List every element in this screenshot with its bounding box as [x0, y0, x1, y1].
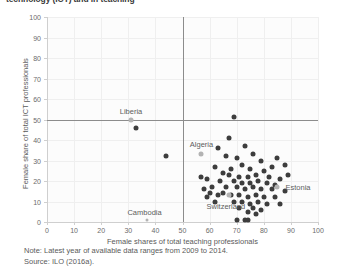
data-point [283, 162, 288, 167]
x-tick-label: 90 [287, 227, 295, 234]
point-label: Cambodia [127, 207, 161, 216]
data-point [204, 176, 209, 181]
data-point [237, 174, 242, 179]
point-label: Liberia [120, 107, 143, 116]
y-tick [44, 38, 47, 39]
y-tick-label: 20 [33, 178, 41, 185]
data-point [231, 115, 236, 120]
data-point [278, 176, 283, 181]
x-tick [101, 222, 102, 225]
data-point [240, 181, 245, 186]
data-point [245, 174, 250, 179]
y-tick-label: 100 [29, 14, 41, 21]
footnote: Note: Latest year of available data rang… [24, 246, 228, 267]
data-point [259, 187, 264, 192]
data-point [204, 195, 209, 200]
data-point-highlighted [226, 193, 231, 198]
x-tick [237, 222, 238, 225]
x-tick-label: 30 [124, 227, 132, 234]
data-point [226, 172, 231, 177]
data-point-highlighted [129, 117, 134, 122]
data-point [250, 152, 255, 157]
y-tick-label: 70 [33, 75, 41, 82]
y-tick-label: 30 [33, 157, 41, 164]
data-point [275, 156, 280, 161]
data-point [234, 185, 239, 190]
y-tick [44, 161, 47, 162]
footnote-note: Note: Latest year of available data rang… [24, 246, 228, 257]
y-tick [44, 99, 47, 100]
data-point [267, 174, 272, 179]
x-tick [264, 222, 265, 225]
x-tick-label: 20 [97, 227, 105, 234]
data-point [272, 195, 277, 200]
scatter-plot-figure: technology (ICT) and in teaching 0102030… [0, 0, 357, 271]
y-tick-label: 50 [33, 116, 41, 123]
data-point [237, 193, 242, 198]
x-tick-label: 40 [151, 227, 159, 234]
data-point [223, 185, 228, 190]
data-point [256, 199, 261, 204]
y-tick [44, 222, 47, 223]
data-point [226, 135, 231, 140]
y-tick [44, 79, 47, 80]
x-tick-label: 60 [206, 227, 214, 234]
data-point [248, 166, 253, 171]
x-tick [155, 222, 156, 225]
point-label: Algeria [190, 140, 213, 149]
data-point [245, 195, 250, 200]
data-point [234, 217, 239, 222]
data-point [242, 187, 247, 192]
point-label: Switzerland [206, 201, 245, 210]
data-point [199, 174, 204, 179]
data-point [210, 185, 215, 190]
x-tick-label: 0 [45, 227, 49, 234]
data-point [286, 172, 291, 177]
plot-area: 0102030405060708090100010203040506070809… [47, 17, 318, 222]
y-tick-label: 40 [33, 137, 41, 144]
y-tick [44, 140, 47, 141]
data-point [202, 187, 207, 192]
data-point [240, 162, 245, 167]
x-tick-label: 50 [179, 227, 187, 234]
gridline-vertical [318, 17, 319, 222]
point-label: Estonia [285, 183, 310, 192]
data-point [231, 179, 236, 184]
data-point [269, 187, 274, 192]
data-point [213, 164, 218, 169]
data-point [218, 179, 223, 184]
x-tick-label: 80 [260, 227, 268, 234]
y-tick-label: 90 [33, 34, 41, 41]
chart-title: technology (ICT) and in teaching [6, 0, 306, 6]
data-point [253, 193, 258, 198]
data-point-highlighted [275, 185, 280, 190]
reference-line-vertical [183, 17, 184, 222]
data-point [134, 125, 139, 130]
x-tick [128, 222, 129, 225]
y-tick [44, 17, 47, 18]
data-point [164, 154, 169, 159]
x-tick [210, 222, 211, 225]
data-point [256, 179, 261, 184]
footnote-source: Source: ILO (2016a). [24, 257, 228, 268]
y-tick-label: 60 [33, 96, 41, 103]
reference-lines [47, 17, 318, 222]
y-axis-title: Female share of total ICT professionals [21, 29, 30, 219]
data-point [250, 205, 255, 210]
data-point [259, 207, 264, 212]
data-point [245, 217, 250, 222]
data-point [245, 209, 250, 214]
data-point [264, 181, 269, 186]
y-tick [44, 202, 47, 203]
y-tick [44, 58, 47, 59]
x-tick [291, 222, 292, 225]
x-tick-label: 10 [70, 227, 78, 234]
y-tick-label: 10 [33, 198, 41, 205]
data-point-highlighted [199, 152, 204, 157]
x-tick [183, 222, 184, 225]
data-point [250, 185, 255, 190]
data-point [269, 164, 274, 169]
data-point [223, 154, 228, 159]
data-point [259, 158, 264, 163]
y-tick [44, 181, 47, 182]
